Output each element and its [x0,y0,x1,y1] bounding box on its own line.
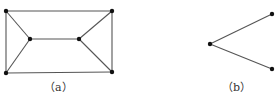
edge-left-upper-right [210,14,272,44]
edge-top-left-inner-left [6,11,30,39]
figure-b-caption: （b） [222,82,251,94]
edge-left-lower-right [210,44,272,69]
vertex-top-left [4,9,8,13]
vertex-inner-left [28,37,32,41]
vertex-inner-right [77,37,81,41]
vertex-bottom-right [110,70,114,74]
vertex-upper-right [270,12,274,16]
edge-top-right-inner-right [79,11,112,39]
vertex-bottom-left [4,71,8,75]
vertex-lower-right [270,67,274,71]
edge-bottom-left-inner-left [6,39,30,73]
figure-b-graph [208,12,274,71]
vertex-top-right [110,9,114,13]
edge-bottom-right-inner-right [79,39,112,72]
vertex-left [208,42,212,46]
figure-a-caption: （a） [44,82,73,94]
figure-a-graph [4,9,114,75]
edge-bottom-left-bottom-right [6,72,112,73]
